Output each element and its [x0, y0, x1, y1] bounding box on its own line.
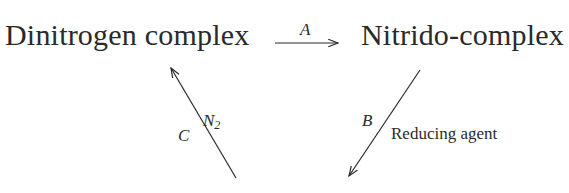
arrow-a-label: A — [300, 20, 310, 40]
arrow-c-reagent: N2 — [203, 111, 220, 133]
arrows-layer — [0, 0, 569, 193]
n2-subscript: 2 — [214, 118, 220, 132]
n2-symbol: N — [203, 111, 214, 130]
arrow-b-reagent: Reducing agent — [391, 124, 497, 144]
arrow-b-label: B — [362, 111, 372, 131]
arrow-b — [349, 70, 420, 176]
arrow-c-label: C — [178, 126, 189, 146]
